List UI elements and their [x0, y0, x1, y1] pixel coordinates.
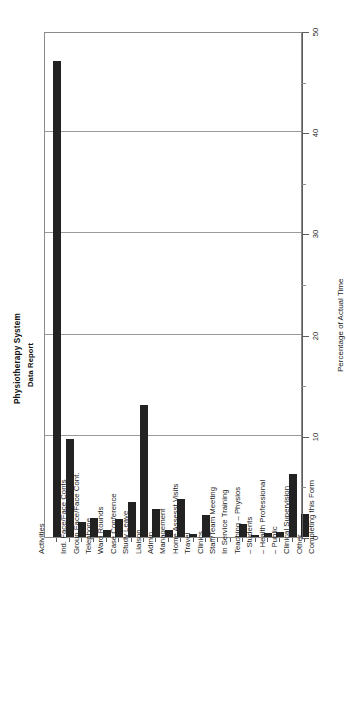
- category-tick: [292, 538, 293, 542]
- category-tick: [304, 538, 305, 542]
- value-minor-tick-25: [302, 285, 306, 286]
- category-label: Other: [295, 535, 304, 555]
- category-label: Teaching – Physios: [233, 487, 242, 554]
- value-tick-label-40: 40: [311, 129, 320, 137]
- category-label: Telephone: [84, 518, 93, 554]
- bar-slot: [138, 33, 150, 537]
- category-label: Management: [158, 508, 167, 554]
- category-tick: [106, 538, 107, 542]
- value-minor-tick-5: [302, 487, 306, 488]
- category-tick: [267, 538, 268, 542]
- category-label: Clinics: [196, 531, 205, 554]
- category-label: Completing this Form: [307, 480, 316, 554]
- category-tick: [118, 538, 119, 542]
- category-tick: [255, 538, 256, 542]
- value-tick-label-10: 10: [311, 433, 320, 441]
- category-tick: [143, 538, 144, 542]
- bar-slot: [163, 33, 175, 537]
- value-minor-tick-35: [302, 184, 306, 185]
- category-label: Case Conference: [109, 493, 118, 554]
- value-tick-30: [302, 234, 309, 235]
- category-tick: [131, 538, 132, 542]
- bar-slot: [101, 33, 113, 537]
- bar-slot: [125, 33, 137, 537]
- bar: [140, 405, 148, 537]
- category-label: Staff/Team Meeting: [208, 487, 217, 554]
- category-label: Home Assesst Visits: [171, 484, 180, 554]
- value-tick-label-20: 20: [311, 331, 320, 339]
- category-label: – Health Professional: [258, 480, 267, 554]
- bar-slot: [286, 33, 298, 537]
- bar-slot: [150, 33, 162, 537]
- category-label: Study Leave: [121, 511, 130, 554]
- value-tick-label-50: 50: [311, 28, 320, 36]
- bar-slot: [212, 33, 224, 537]
- bar-slot: [237, 33, 249, 537]
- category-label: – Students: [245, 517, 254, 554]
- category-tick: [230, 538, 231, 542]
- page-subtitle: Data Report: [26, 343, 35, 387]
- bar-slot: [175, 33, 187, 537]
- value-tick-40: [302, 133, 309, 134]
- value-minor-tick-45: [302, 83, 306, 84]
- category-axis-title: Activities: [37, 523, 46, 554]
- value-tick-10: [302, 437, 309, 438]
- bar-slot: [51, 33, 63, 537]
- category-tick: [56, 538, 57, 542]
- bar-slot: [274, 33, 286, 537]
- value-axis-title: Percentage of Actual Time: [336, 279, 345, 372]
- value-minor-tick-15: [302, 386, 306, 387]
- bar-series: [45, 33, 301, 537]
- category-tick: [193, 538, 194, 542]
- bar-slot: [63, 33, 75, 537]
- bar-slot: [249, 33, 261, 537]
- category-tick: [242, 538, 243, 542]
- category-tick: [180, 538, 181, 542]
- category-label: Ind. Face/Face Conts: [59, 479, 68, 554]
- bar-slot: [88, 33, 100, 537]
- chart-plot-area: [44, 32, 302, 538]
- page-title: Physiotherapy System: [13, 313, 22, 404]
- bar: [53, 61, 61, 537]
- bar-slot: [113, 33, 125, 537]
- value-tick-50: [302, 32, 309, 33]
- category-tick: [205, 538, 206, 542]
- category-label: In Service Training: [220, 489, 229, 554]
- value-tick-20: [302, 336, 309, 337]
- category-tick: [93, 538, 94, 542]
- category-label: Clinical Supervision: [282, 486, 291, 554]
- category-tick: [168, 538, 169, 542]
- bar-slot: [224, 33, 236, 537]
- bar-slot: [262, 33, 274, 537]
- category-axis: Activities Ind. Face/Face ContsGroup Fac…: [0, 538, 346, 709]
- category-label: Admin.: [146, 530, 155, 554]
- value-axis: Percentage of Actual Time 01020304050: [302, 32, 346, 538]
- bar-slot: [76, 33, 88, 537]
- category-tick: [81, 538, 82, 542]
- category-tick: [69, 538, 70, 542]
- category-label: Travel: [183, 533, 192, 554]
- category-label: Ward Rounds: [96, 507, 105, 554]
- category-tick: [279, 538, 280, 542]
- value-tick-label-30: 30: [311, 230, 320, 238]
- category-label: – Public: [270, 526, 279, 554]
- category-tick: [155, 538, 156, 542]
- category-label: Liaison: [134, 529, 143, 554]
- bar-slot: [200, 33, 212, 537]
- bar-slot: [187, 33, 199, 537]
- category-label: Group Face/Face Cont.: [72, 473, 81, 554]
- category-tick: [217, 538, 218, 542]
